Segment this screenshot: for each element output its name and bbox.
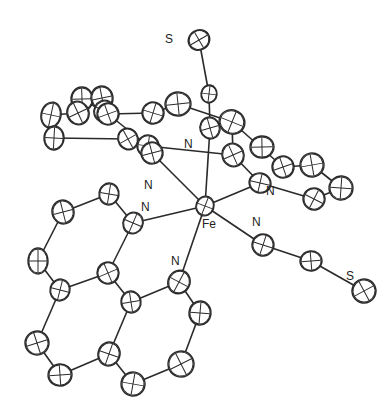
atom-label-N_ur: N bbox=[266, 184, 275, 198]
atom-label-N_ll: N bbox=[171, 254, 180, 268]
atom-ellipsoid-u20 bbox=[269, 153, 297, 181]
atom-ellipsoid-l6 bbox=[48, 277, 73, 303]
atom-ellipsoid-u9 bbox=[164, 91, 192, 118]
atom-ellipsoid-l8 bbox=[164, 266, 195, 298]
atom-ellipsoid-u3 bbox=[39, 100, 64, 130]
atom-ellipsoid-u19 bbox=[328, 175, 354, 201]
atom-label-S1: S bbox=[165, 32, 173, 46]
atom-ellipsoid-C_top bbox=[200, 84, 218, 104]
atom-ellipsoid-l7 bbox=[119, 290, 142, 315]
bond-N_top-Fe bbox=[205, 128, 210, 206]
atom-ellipsoid-u6 bbox=[43, 125, 64, 150]
atom-layer bbox=[22, 26, 380, 398]
bond-u6-u10 bbox=[54, 138, 128, 139]
atom-label-Fe: Fe bbox=[202, 217, 216, 231]
atom-ellipsoid-u17 bbox=[298, 151, 326, 179]
atom-ellipsoid-u8 bbox=[139, 99, 166, 126]
atom-label-N_ul: N bbox=[144, 178, 153, 192]
atom-label-N_r: N bbox=[252, 215, 261, 229]
atom-ellipsoid-l14 bbox=[119, 370, 147, 398]
atom-ellipsoid-S1 bbox=[184, 26, 213, 54]
atom-ellipsoid-l12 bbox=[47, 363, 72, 387]
atom-ellipsoid-C_r bbox=[299, 250, 323, 272]
atom-ellipsoid-l5 bbox=[94, 259, 123, 288]
atom-ellipsoid-l9 bbox=[188, 300, 212, 326]
atom-label-N_top: N bbox=[184, 137, 193, 151]
atom-label-S2: S bbox=[346, 269, 354, 283]
atom-ellipsoid-l11 bbox=[95, 339, 124, 369]
ortep-molecular-structure: SNNNNFeNNS bbox=[0, 0, 391, 415]
atom-ellipsoid-l2 bbox=[49, 198, 76, 227]
atom-ellipsoid-l10 bbox=[22, 328, 52, 358]
atom-label-N_l: N bbox=[141, 200, 150, 214]
atom-ellipsoid-u14 bbox=[250, 136, 274, 158]
atom-ellipsoid-l4 bbox=[28, 248, 48, 274]
atom-ellipsoid-u18 bbox=[299, 184, 329, 214]
atom-ellipsoid-l13 bbox=[164, 347, 199, 382]
atom-ellipsoid-N_r bbox=[249, 231, 277, 259]
